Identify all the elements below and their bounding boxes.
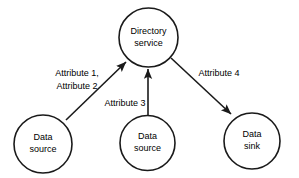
edge-attribute-3-label: Attribute 3 bbox=[104, 98, 145, 108]
diagram-canvas: Attribute 1, Attribute 2 Attribute 3 Att… bbox=[0, 0, 299, 178]
edge-attribute-4-label: Attribute 4 bbox=[198, 68, 239, 78]
node-directory-service-label-line2: service bbox=[134, 38, 163, 48]
edge-attribute-4-line bbox=[171, 58, 231, 114]
node-data-source-left-label-line2: source bbox=[29, 144, 56, 154]
node-directory-service-label-line1: Directory bbox=[130, 26, 167, 36]
node-data-sink-right[interactable]: Data sink bbox=[224, 113, 280, 169]
edge-attribute-4: Attribute 4 bbox=[171, 58, 240, 114]
edge-attribute-1-2-label-line2: Attribute 2 bbox=[56, 81, 97, 91]
edge-attribute-1-2-label-line1: Attribute 1, bbox=[55, 68, 99, 78]
node-data-source-middle-label-line2: source bbox=[134, 143, 161, 153]
node-data-source-middle[interactable]: Data source bbox=[120, 116, 175, 171]
edge-attribute-1-2: Attribute 1, Attribute 2 bbox=[55, 62, 126, 120]
node-data-source-middle-label-line1: Data bbox=[138, 131, 157, 141]
node-data-source-left[interactable]: Data source bbox=[14, 115, 72, 173]
node-directory-service[interactable]: Directory service bbox=[119, 8, 178, 67]
node-data-sink-right-label-line1: Data bbox=[242, 129, 261, 139]
node-data-sink-right-label-line2: sink bbox=[244, 141, 261, 151]
attribute-flow-diagram: Attribute 1, Attribute 2 Attribute 3 Att… bbox=[0, 0, 299, 178]
node-data-source-left-label-line1: Data bbox=[33, 132, 52, 142]
